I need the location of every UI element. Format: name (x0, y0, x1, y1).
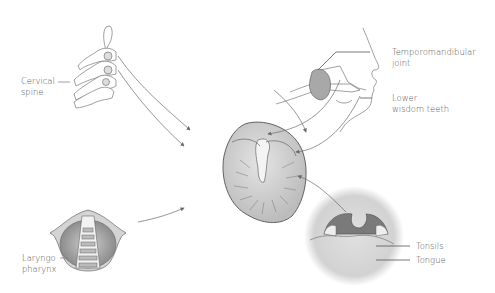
label-tmj: Temporomandibular joint (392, 47, 476, 69)
label-line: wisdom teeth (392, 104, 449, 115)
cervical-spine-illustration (74, 26, 116, 108)
tmj-gland (309, 69, 330, 100)
label-line: joint (392, 58, 476, 69)
label-cervical-spine: Cervical spine (21, 76, 55, 98)
label-line: Temporomandibular (392, 47, 476, 58)
label-line: Laryngo (22, 253, 56, 264)
label-laryngopharynx: Laryngo pharynx (22, 253, 56, 275)
laryngopharynx-illustration (50, 210, 126, 271)
label-line: pharynx (22, 264, 56, 275)
label-line: Cervical (21, 76, 55, 87)
ear-illustration (223, 122, 306, 222)
label-tongue: Tongue (416, 255, 446, 266)
label-line: Tonsils (416, 241, 444, 252)
label-tonsils: Tonsils (416, 241, 444, 252)
label-line: Lower (392, 93, 449, 104)
label-line: spine (21, 87, 55, 98)
tonsils-tongue-illustration (304, 186, 404, 286)
label-line: Tongue (416, 255, 446, 266)
label-wisdom-teeth: Lower wisdom teeth (392, 93, 449, 115)
